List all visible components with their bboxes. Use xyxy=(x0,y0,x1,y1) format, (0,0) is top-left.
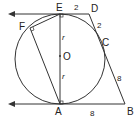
label-F: F xyxy=(19,21,25,32)
length-DC: 2 xyxy=(97,21,102,30)
bottom-arrow-icon xyxy=(8,101,15,107)
label-E: E xyxy=(56,2,63,13)
radius-label-upper: r xyxy=(62,33,65,42)
length-CB: 8 xyxy=(117,74,122,83)
label-C: C xyxy=(102,37,109,48)
chord-FA xyxy=(30,28,60,104)
label-O: O xyxy=(63,51,71,62)
center-dot xyxy=(59,55,61,57)
radius-label-lower: r xyxy=(62,72,65,81)
label-A: A xyxy=(55,106,62,117)
length-ED: 2 xyxy=(74,3,79,12)
top-arrow-icon xyxy=(8,11,15,17)
length-AB: 8 xyxy=(90,109,95,118)
geometry-diagram: E D F O C A B 2 2 8 8 r r xyxy=(0,0,137,120)
label-D: D xyxy=(91,3,98,14)
segment-DB xyxy=(89,14,125,104)
label-B: B xyxy=(127,106,134,117)
